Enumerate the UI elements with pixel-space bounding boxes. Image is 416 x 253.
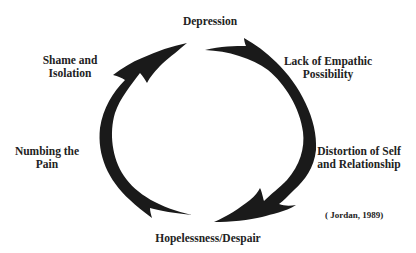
node-depression: Depression (170, 15, 250, 28)
node-label: Hopelessness/Despair (155, 232, 260, 244)
node-label-line: and Relationship (299, 158, 416, 171)
node-hopelessness-despair: Hopelessness/Despair (143, 232, 273, 245)
node-label-line: Shame and (30, 54, 110, 67)
node-label: Depression (183, 15, 237, 27)
citation: ( Jordan, 1989) (325, 210, 383, 220)
node-label-line: Possibility (268, 68, 388, 81)
node-shame-and-isolation: Shame and Isolation (30, 54, 110, 80)
node-label-line: Numbing the (12, 145, 82, 158)
node-label-line: Isolation (30, 67, 110, 80)
node-lack-of-empathic-possibility: Lack of Empathic Possibility (268, 55, 388, 81)
node-numbing-the-pain: Numbing the Pain (12, 145, 82, 171)
left-arc-arrow (100, 43, 192, 218)
node-label-line: Lack of Empathic (268, 55, 388, 68)
node-distortion-of-self: Distortion of Self and Relationship (299, 145, 416, 171)
node-label-line: Distortion of Self (299, 145, 416, 158)
node-label-line: Pain (12, 158, 82, 171)
depression-cycle-diagram: Depression Lack of Empathic Possibility … (0, 0, 416, 253)
